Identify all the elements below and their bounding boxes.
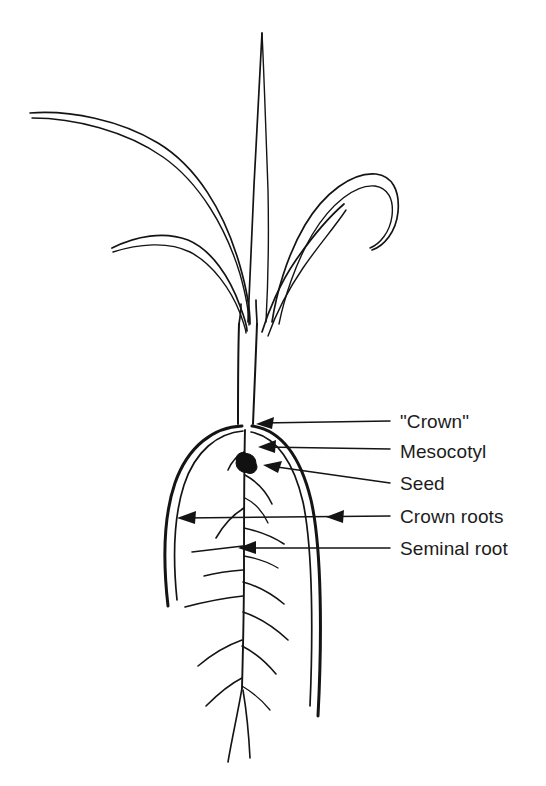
label-crown: "Crown" (400, 411, 469, 432)
stem (238, 324, 257, 424)
label-crown-roots: Crown roots (400, 506, 504, 527)
lower-left-leaf (112, 235, 247, 333)
diagram-canvas: "Crown" Mesocotyl Seed Crown roots Semin… (0, 0, 546, 786)
leader-crown-roots (177, 510, 390, 524)
label-text-group: "Crown" Mesocotyl Seed Crown roots Semin… (400, 411, 508, 559)
central-leaf (248, 33, 268, 322)
corn-seedling-illustration: "Crown" Mesocotyl Seed Crown roots Semin… (0, 0, 546, 786)
leader-mesocotyl (258, 440, 390, 453)
lower-right-leaf (262, 204, 346, 336)
label-seed: Seed (400, 473, 445, 494)
leader-seed (263, 461, 390, 483)
seed-kernel (236, 453, 257, 474)
upper-right-leaf (272, 174, 398, 324)
seminal-root-system (185, 430, 288, 762)
label-seminal-root: Seminal root (400, 538, 508, 559)
upper-left-leaf (30, 112, 250, 325)
leaf-group (30, 33, 398, 336)
label-mesocotyl: Mesocotyl (400, 441, 486, 462)
leader-crown (256, 417, 390, 429)
leader-seminal-root (238, 541, 390, 554)
